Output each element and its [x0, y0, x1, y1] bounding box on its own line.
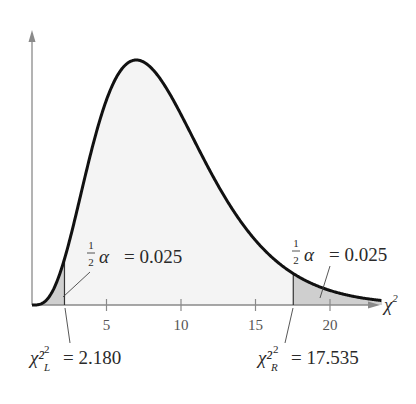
svg-text:L: L: [43, 361, 50, 373]
svg-text:1: 1: [293, 237, 299, 249]
svg-text:2: 2: [44, 343, 50, 355]
svg-text:= 17.535: = 17.535: [291, 347, 359, 368]
svg-text:χ²: χ²: [256, 347, 272, 368]
left-critical-value-label: χ² 2 L = 2.180: [28, 343, 121, 373]
svg-text:α: α: [99, 246, 110, 267]
svg-text:= 0.025: = 0.025: [124, 246, 182, 267]
svg-text:α: α: [304, 244, 315, 265]
y-axis: [29, 30, 36, 305]
y-axis-arrow-icon: [29, 30, 36, 42]
chi-square-chart: 5101520 χ2 1 2 α = 0.025 1 2 α = 0.025 χ…: [0, 0, 416, 404]
svg-text:2: 2: [88, 256, 94, 268]
x-tick-label: 10: [174, 317, 189, 333]
x-axis-label: χ2: [382, 292, 398, 315]
right-critical-value-label: χ² 2 R = 17.535: [256, 343, 359, 373]
right-tail-annotation: 1 2 α = 0.025: [292, 237, 387, 266]
left-value-leader: [65, 308, 70, 343]
x-tick-label: 20: [323, 317, 338, 333]
svg-text:R: R: [270, 361, 278, 373]
x-tick-label: 15: [248, 317, 263, 333]
right-value-leader: [285, 308, 293, 343]
svg-text:χ²: χ²: [28, 347, 44, 368]
svg-text:= 2.180: = 2.180: [63, 347, 121, 368]
svg-text:= 0.025: = 0.025: [329, 244, 387, 265]
svg-text:2: 2: [293, 254, 299, 266]
x-tick-label: 5: [103, 317, 111, 333]
svg-text:1: 1: [88, 239, 94, 251]
center-area: [64, 60, 293, 305]
svg-text:2: 2: [273, 343, 279, 355]
